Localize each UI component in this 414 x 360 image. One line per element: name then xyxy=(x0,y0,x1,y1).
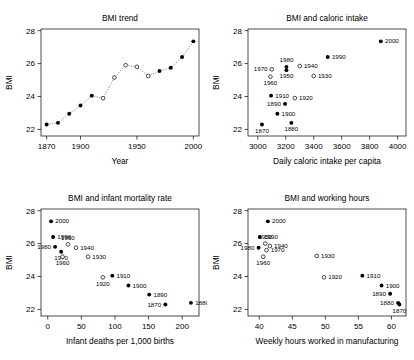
x-tick-label: 3200 xyxy=(277,142,295,151)
y-tick-label: 28 xyxy=(26,207,35,216)
y-tick-label: 22 xyxy=(26,305,35,314)
data-point-marker xyxy=(180,55,184,59)
data-point-marker xyxy=(113,76,117,80)
x-tick-label: 60 xyxy=(387,322,396,331)
chart-title: BMI and caloric intake xyxy=(286,13,368,23)
x-tick-label: 50 xyxy=(77,322,86,331)
data-point-marker xyxy=(388,292,392,296)
point-label: 1890 xyxy=(153,291,167,298)
chart-title: BMI trend xyxy=(102,13,138,23)
data-point-marker xyxy=(191,39,195,43)
point-label: 1900 xyxy=(282,110,296,117)
data-point-marker xyxy=(189,301,193,305)
x-tick-label: 2000 xyxy=(184,142,202,151)
x-tick-label: 1900 xyxy=(72,142,90,151)
x-tick-label: 3000 xyxy=(249,142,267,151)
point-label: 2000 xyxy=(385,37,399,44)
point-label: 1880 xyxy=(195,299,207,306)
chart-svg-bmi-trend: 222426281870190019502000BMI trendYearBMI xyxy=(0,0,207,180)
data-point-marker xyxy=(269,94,273,98)
point-label: 1980 xyxy=(241,244,255,251)
data-point-marker xyxy=(51,235,55,239)
point-label: 1890 xyxy=(267,100,281,107)
y-tick-label: 26 xyxy=(26,59,35,68)
data-point-marker xyxy=(380,284,384,288)
data-point-marker xyxy=(283,102,287,106)
data-point-marker xyxy=(326,55,330,59)
point-label: 1880 xyxy=(284,125,298,132)
data-point-marker xyxy=(263,242,267,246)
data-point-marker xyxy=(90,94,94,98)
x-tick-label: 4000 xyxy=(389,142,407,151)
data-point-marker xyxy=(59,250,63,254)
y-axis-label: BMI xyxy=(4,75,14,90)
multi-panel-figure: 222426281870190019502000BMI trendYearBMI… xyxy=(0,0,414,360)
point-label: 1970 xyxy=(254,65,268,72)
data-point-marker xyxy=(110,274,114,278)
y-tick-label: 28 xyxy=(26,27,35,36)
point-label: 1870 xyxy=(393,307,407,314)
data-point-marker xyxy=(315,254,319,258)
data-point-marker xyxy=(285,65,289,69)
data-point-marker xyxy=(101,275,105,279)
data-point-marker xyxy=(147,293,151,297)
point-label: 1930 xyxy=(321,252,335,259)
data-point-marker xyxy=(265,248,269,252)
y-tick-label: 24 xyxy=(233,92,242,101)
data-point-marker xyxy=(260,123,264,127)
chart-svg-bmi-working-hours: 222426284045505560BMI and working hoursW… xyxy=(207,180,414,360)
data-point-marker xyxy=(45,123,49,127)
data-point-marker xyxy=(312,74,316,78)
x-tick-label: 40 xyxy=(255,322,264,331)
point-label: 1980 xyxy=(37,243,51,250)
y-tick-label: 24 xyxy=(233,272,242,281)
y-axis-label: BMI xyxy=(211,75,221,90)
point-label: 2000 xyxy=(55,217,69,224)
x-tick-label: 1950 xyxy=(128,142,146,151)
y-tick-label: 28 xyxy=(233,27,242,36)
data-point-marker xyxy=(67,112,71,116)
data-point-marker xyxy=(169,66,173,70)
x-tick-label: 3400 xyxy=(305,142,323,151)
point-label: 2000 xyxy=(272,217,286,224)
x-tick-label: 3800 xyxy=(361,142,379,151)
point-label: 1910 xyxy=(275,92,289,99)
data-point-marker xyxy=(322,275,326,279)
point-label: 1980 xyxy=(280,56,294,63)
point-label: 1920 xyxy=(328,273,342,280)
data-point-marker xyxy=(146,74,150,78)
data-point-marker xyxy=(360,274,364,278)
data-point-marker xyxy=(101,96,105,100)
point-label: 1880 xyxy=(380,299,394,306)
x-tick-label: 1870 xyxy=(38,142,56,151)
x-axis-label: Infant deaths per 1,000 births xyxy=(66,336,174,346)
data-point-marker xyxy=(126,284,130,288)
y-tick-label: 24 xyxy=(26,92,35,101)
point-label: 1990 xyxy=(264,233,278,240)
chart-panel-bmi-caloric-intake: 22242628300032003400360038004000BMI and … xyxy=(207,0,414,180)
x-tick-label: 200 xyxy=(176,322,190,331)
data-point-marker xyxy=(86,255,90,259)
point-label: 1950 xyxy=(280,72,294,79)
data-point-marker xyxy=(257,246,261,250)
data-point-marker xyxy=(158,69,162,73)
chart-svg-bmi-infant-mortality: 22242628050100150200BMI and infant morta… xyxy=(0,180,207,360)
y-axis-label: BMI xyxy=(211,255,221,270)
data-point-marker xyxy=(396,301,400,305)
point-label: 1940 xyxy=(304,62,318,69)
y-tick-label: 24 xyxy=(26,272,35,281)
point-label: 1900 xyxy=(386,282,400,289)
data-point-marker xyxy=(49,219,53,223)
data-point-marker xyxy=(74,246,78,250)
chart-title: BMI and infant mortality rate xyxy=(68,193,172,203)
x-tick-label: 55 xyxy=(354,322,363,331)
data-point-marker xyxy=(258,235,262,239)
chart-panel-bmi-working-hours: 222426284045505560BMI and working hoursW… xyxy=(207,180,414,360)
x-axis-label: Year xyxy=(112,156,129,166)
point-label: 1930 xyxy=(92,253,106,260)
y-tick-label: 26 xyxy=(26,239,35,248)
data-point-marker xyxy=(66,243,70,247)
data-point-marker xyxy=(124,63,128,67)
data-point-marker xyxy=(53,245,57,249)
data-point-marker xyxy=(268,244,272,248)
